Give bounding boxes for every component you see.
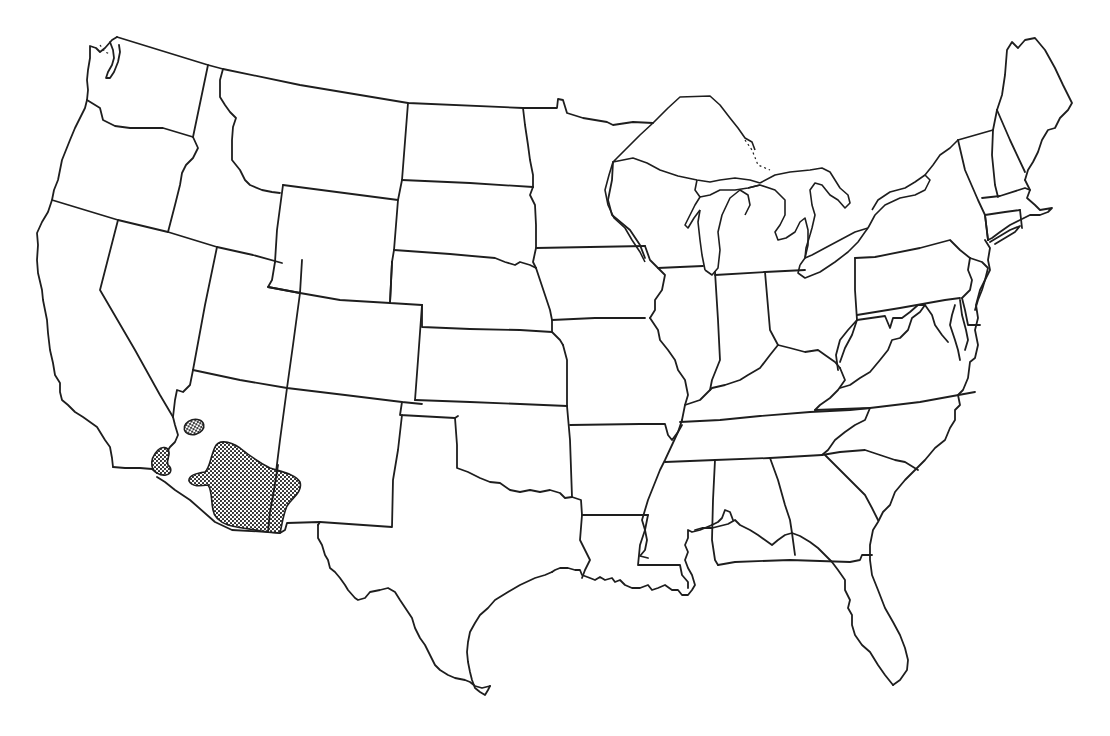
border-nm-tx-ok (400, 402, 458, 418)
national-outline (37, 37, 1072, 695)
border-id-wy (275, 185, 283, 262)
puget-sound (106, 42, 120, 78)
upper-peninsula-south-shore (695, 180, 760, 197)
border-ca-nv (100, 220, 173, 417)
border-oh-wv (840, 320, 857, 362)
border-wy-co (268, 262, 392, 303)
border-ny-ct (985, 215, 988, 240)
range-southeast-california (152, 448, 171, 476)
border-mt-wy (283, 185, 398, 200)
border-mn-wi (608, 162, 645, 258)
state-boundaries (52, 65, 1030, 588)
border-sd-mn-ia (530, 187, 536, 268)
northern-border-east (958, 110, 997, 140)
border-tx-ar-la (572, 497, 590, 578)
border-or-id (168, 137, 198, 232)
border-pa-nj (962, 258, 972, 298)
border-ok-tx-red-river (455, 418, 572, 498)
st-lawrence-river (925, 140, 958, 175)
san-juan-islands (100, 45, 110, 54)
lake-huron-shore (748, 185, 808, 265)
border-ma-south (985, 210, 1020, 215)
lake-michigan-west-shore (698, 210, 705, 270)
border-nh-me (997, 110, 1025, 172)
border-co-ks (415, 305, 422, 400)
us-outline-map (0, 0, 1110, 736)
border-ms-la (638, 515, 688, 588)
border-wv-va (840, 305, 925, 388)
pacific-coast (37, 37, 117, 467)
border-ia-mo (552, 318, 645, 320)
atlantic-coast (870, 240, 990, 685)
border-tn-south (665, 455, 822, 462)
range-western-arizona (182, 417, 205, 437)
border-ky-tn (680, 408, 870, 422)
border-ky-wv-va (815, 368, 845, 410)
border-fl-ga-al (718, 555, 872, 565)
border-wa-or (87, 100, 193, 137)
border-ne-ks (422, 305, 552, 332)
lake-erie-north-shore (805, 228, 868, 258)
lake-superior-north-shore (653, 96, 755, 150)
chesapeake-bay-west (950, 305, 960, 360)
rio-grande-border (318, 525, 490, 688)
border-va-nc (815, 392, 975, 410)
border-ne-ia-mo (536, 268, 563, 345)
lake-ontario-shore (868, 175, 930, 228)
border-ne-co (390, 262, 422, 305)
border-ut-az-co-nm (193, 370, 422, 404)
border-ks-ok (415, 400, 567, 406)
border-mn-ia (536, 246, 645, 248)
border-wi-il (658, 266, 703, 268)
border-ok-ar (567, 406, 572, 497)
border-nd-mn (523, 108, 533, 187)
border-oh-pa (836, 258, 857, 370)
border-al-ga (770, 458, 795, 555)
border-in-oh-mi (715, 270, 805, 275)
nj-coast (970, 258, 988, 310)
border-vt-nh (992, 130, 998, 197)
range-southern-arizona (189, 442, 301, 533)
border-ny-vt (958, 140, 988, 240)
maine-outline (997, 38, 1072, 180)
border-nm-tx (320, 415, 402, 527)
georgian-bay-shore (760, 168, 850, 235)
distribution-ranges (152, 417, 301, 533)
border-il-mo (650, 318, 688, 420)
st-marys-river (745, 140, 770, 170)
border-ut-co (287, 293, 300, 388)
border-in-oh (765, 272, 778, 345)
lake-superior-south-shore (613, 123, 760, 183)
border-nv-az (173, 370, 193, 417)
border-ma-north (982, 188, 1030, 198)
border-sc-ga (825, 455, 878, 520)
border-pa-ny (855, 240, 970, 258)
texas-coast (467, 572, 552, 695)
border-ia-il-wi (645, 246, 665, 318)
border-wa-id (193, 65, 208, 137)
lake-michigan-east-shore (705, 190, 750, 275)
border-id-mt (220, 69, 280, 193)
border-nd-sd (402, 180, 533, 187)
border-mississippi-ar-tn-ms (640, 420, 682, 558)
border-ms-al (712, 460, 718, 565)
border-tn-nc (822, 408, 870, 455)
border-sd-ne (394, 250, 536, 268)
border-nv-ut (193, 247, 217, 370)
border-or-ca-nv-id (52, 200, 282, 263)
border-ks-mo (563, 345, 567, 406)
border-mt-nd-wy-sd (392, 103, 408, 262)
border-mo-ar (570, 424, 682, 440)
california-mexico-border (113, 467, 157, 473)
border-il-in (710, 272, 720, 390)
map-container: Map of the contiguous United States with… (0, 0, 1110, 736)
border-ohio-river (685, 345, 840, 405)
